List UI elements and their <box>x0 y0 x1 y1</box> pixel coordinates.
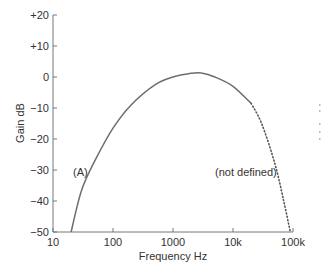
y-tick-label: −30 <box>30 164 49 176</box>
gain-frequency-chart: +20+100−10−20−30−40−50 10100100010k100k … <box>0 0 322 270</box>
a-weighting-curve <box>71 73 251 232</box>
annotations: (A)(not defined) <box>73 166 277 178</box>
y-axis-title: Gain dB <box>14 103 26 143</box>
y-tick-label: −20 <box>30 133 49 145</box>
x-axis-title: Frequency Hz <box>139 250 207 262</box>
x-tick-label: 100k <box>281 236 305 248</box>
annotation-a: (A) <box>73 166 88 178</box>
x-tick-label: 1000 <box>161 236 185 248</box>
series <box>71 73 290 232</box>
y-tick-label: −40 <box>30 195 49 207</box>
x-tick-label: 100 <box>104 236 122 248</box>
y-tick-label: 0 <box>43 71 49 83</box>
x-tick-label: 10 <box>47 236 59 248</box>
stray-marks <box>319 104 321 140</box>
annotation-not-defined: (not defined) <box>215 166 277 178</box>
axes <box>53 15 293 232</box>
y-tick-label: +20 <box>30 9 49 21</box>
y-tick-label: −10 <box>30 102 49 114</box>
x-tick-label: 10k <box>224 236 242 248</box>
y-tick-label: +10 <box>30 40 49 52</box>
x-ticks: 10100100010k100k <box>47 228 306 248</box>
